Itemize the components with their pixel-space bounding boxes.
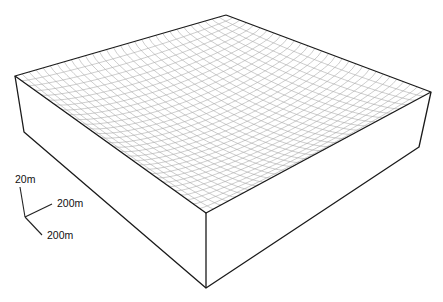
- mesh-line: [135, 41, 334, 146]
- mesh-line: [66, 36, 281, 115]
- mesh-line: [191, 25, 394, 113]
- mesh-line: [34, 23, 246, 91]
- mesh-line: [22, 74, 213, 209]
- mesh-line: [60, 33, 274, 110]
- top-surface-mesh: [21, 17, 424, 209]
- mesh-line: [123, 59, 342, 156]
- scale-label-vertical: 20m: [15, 173, 35, 185]
- mesh-line: [85, 43, 301, 129]
- mesh-line: [149, 37, 349, 138]
- scale-bar-axes: [20, 187, 52, 235]
- top-face-outline: [15, 15, 431, 213]
- mesh-line: [91, 46, 308, 134]
- mesh-line: [177, 29, 379, 121]
- mesh-line: [156, 35, 356, 134]
- scale-label-depth: 200m: [57, 197, 83, 209]
- mesh-line: [40, 25, 253, 95]
- block-diagram: [0, 0, 443, 302]
- mesh-line: [163, 33, 364, 130]
- mesh-line: [29, 72, 221, 205]
- scale-width-axis: [25, 217, 42, 235]
- scale-depth-axis: [25, 204, 52, 217]
- scale-label-width: 200m: [47, 229, 73, 241]
- scale-vertical-axis: [20, 187, 25, 217]
- mesh-line: [128, 43, 326, 150]
